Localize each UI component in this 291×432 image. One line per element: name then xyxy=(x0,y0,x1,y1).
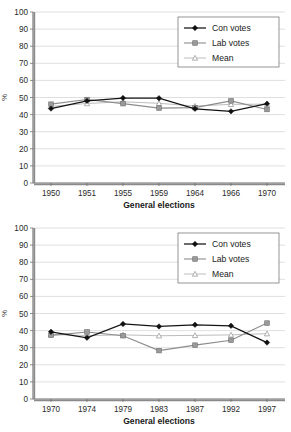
legend-label-con: Con votes xyxy=(212,23,251,33)
legend-label-mean: Mean xyxy=(212,269,234,279)
x-axis-tick-label: 1983 xyxy=(150,405,169,414)
y-axis-tick-label: 40 xyxy=(19,111,29,120)
y-axis-tick-label: 20 xyxy=(19,145,29,154)
x-axis-tick-label: 1964 xyxy=(186,189,205,198)
y-axis-tick-label: 80 xyxy=(19,258,29,267)
x-axis-group: 1970197419791983198719921997 xyxy=(42,399,277,414)
x-axis-tick-label: 1987 xyxy=(186,405,205,414)
y-axis-tick-label: 70 xyxy=(19,59,29,68)
legend-label-lab: Lab votes xyxy=(212,254,249,264)
y-axis-tick-label: 30 xyxy=(19,344,29,353)
legend-label-mean: Mean xyxy=(212,53,234,63)
y-axis-tick-label: 20 xyxy=(19,361,29,370)
x-axis-tick-label: 1992 xyxy=(222,405,241,414)
data-point-con xyxy=(264,340,269,345)
data-point-lab xyxy=(157,348,162,353)
y-axis-tick-label: 0 xyxy=(23,395,28,404)
data-point-con xyxy=(228,323,233,328)
y-axis-tick-label: 70 xyxy=(19,275,29,284)
y-axis-tick-label: 90 xyxy=(19,241,29,250)
y-axis-tick-label: 100 xyxy=(14,8,28,17)
data-point-con xyxy=(156,95,161,100)
x-axis-tick-label: 1979 xyxy=(114,405,133,414)
y-axis-tick-label: 60 xyxy=(19,76,29,85)
chart-panel-bottom: 0102030405060708090100197019741979198319… xyxy=(0,216,291,432)
y-axis-tick-label: 50 xyxy=(19,94,29,103)
y-axis-tick-label: 60 xyxy=(19,292,29,301)
data-point-lab xyxy=(265,107,270,112)
y-axis-tick-label: 90 xyxy=(19,25,29,34)
data-point-lab xyxy=(85,330,90,335)
y-axis-tick-label: 80 xyxy=(19,42,29,51)
line-chart-top: 0102030405060708090100195019511955195919… xyxy=(0,0,291,216)
x-axis-tick-label: 1959 xyxy=(150,189,169,198)
y-axis-title: % xyxy=(0,310,9,317)
y-axis-tick-label: 30 xyxy=(19,128,29,137)
legend: Con votesLab votesMean xyxy=(178,17,279,67)
data-point-lab xyxy=(193,343,198,348)
x-axis-tick-label: 1974 xyxy=(78,405,97,414)
data-point-lab xyxy=(265,321,270,326)
y-axis-tick-label: 10 xyxy=(19,162,29,171)
legend-label-con: Con votes xyxy=(212,239,251,249)
data-point-con xyxy=(156,324,161,329)
chart-panel-top: 0102030405060708090100195019511955195919… xyxy=(0,0,291,216)
x-axis-tick-label: 1966 xyxy=(222,189,241,198)
x-axis-tick-label: 1970 xyxy=(258,189,277,198)
data-point-lab xyxy=(121,101,126,106)
legend: Con votesLab votesMean xyxy=(178,233,279,283)
y-axis-tick-label: 50 xyxy=(19,310,29,319)
x-axis-group: 1950195119551959196419661970 xyxy=(42,183,277,198)
legend-label-lab: Lab votes xyxy=(212,38,249,48)
x-axis-tick-label: 1955 xyxy=(114,189,133,198)
y-axis-tick-label: 40 xyxy=(19,327,29,336)
data-point-con xyxy=(120,95,125,100)
y-axis-title: % xyxy=(0,94,9,101)
x-axis-tick-label: 1950 xyxy=(42,189,61,198)
x-axis-tick-label: 1997 xyxy=(258,405,277,414)
data-point-lab xyxy=(157,106,162,111)
y-axis-tick-label: 10 xyxy=(19,378,29,387)
legend-marker-lab xyxy=(193,257,198,262)
data-point-con xyxy=(228,109,233,114)
data-point-lab xyxy=(229,338,234,343)
data-point-con xyxy=(120,321,125,326)
x-axis-tick-label: 1951 xyxy=(78,189,97,198)
x-axis-title: General elections xyxy=(123,200,195,210)
data-point-lab xyxy=(121,333,126,338)
y-axis-tick-label: 0 xyxy=(23,179,28,188)
data-point-con xyxy=(192,322,197,327)
line-chart-bottom: 0102030405060708090100197019741979198319… xyxy=(0,216,291,432)
y-axis-tick-label: 100 xyxy=(14,224,28,233)
legend-marker-lab xyxy=(193,41,198,46)
x-axis-title: General elections xyxy=(123,416,195,426)
data-point-lab xyxy=(229,99,234,104)
x-axis-tick-label: 1970 xyxy=(42,405,61,414)
